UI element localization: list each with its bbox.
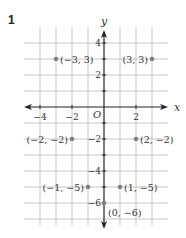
point-marker	[102, 201, 107, 206]
point-label: (−2, −2)	[27, 134, 68, 145]
y-axis-label: y	[100, 15, 108, 28]
y-tick-label: 2	[95, 70, 101, 80]
point-label: (0, −6)	[108, 207, 142, 218]
y-tick-label: −2	[88, 134, 101, 144]
point-label: (2, −2)	[140, 134, 174, 145]
point-label: (3, 3)	[122, 54, 148, 65]
point-label: (1, −5)	[124, 182, 158, 193]
coordinate-plane: xyO−4−2242−2−4−6 (−3, 3)(3, 3)(−2, −2)(2…	[0, 0, 186, 238]
x-tick-label: 2	[133, 112, 139, 122]
point-marker	[70, 137, 75, 142]
x-tick-label: −2	[65, 112, 78, 122]
point-label: (−1, −5)	[43, 182, 84, 193]
x-axis-label: x	[174, 101, 181, 114]
tick-labels: xyO−4−2242−2−4−6	[33, 15, 181, 208]
origin-label: O	[93, 109, 101, 120]
y-tick-label: 4	[95, 38, 101, 48]
y-tick-label: −6	[88, 198, 102, 208]
point-marker	[150, 57, 155, 62]
point-marker	[118, 185, 123, 190]
point-marker	[54, 57, 59, 62]
y-tick-label: −4	[88, 166, 102, 176]
point-marker	[86, 185, 91, 190]
x-tick-label: −4	[33, 112, 47, 122]
point-label: (−3, 3)	[60, 54, 94, 65]
point-marker	[134, 137, 139, 142]
